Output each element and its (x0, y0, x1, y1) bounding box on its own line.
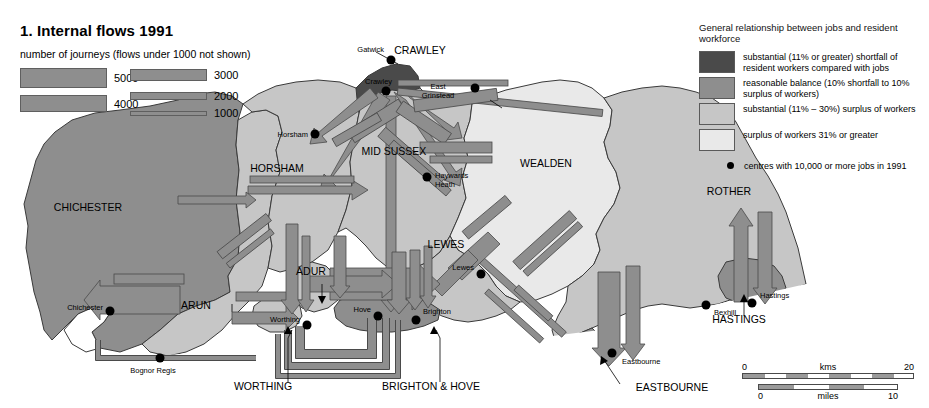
relationship-key-swatch (699, 51, 735, 73)
town-dot (382, 87, 391, 96)
scale-km-labels: 0 kms 20 (742, 362, 914, 373)
journeys-key-item-5000: 5000 (20, 68, 138, 88)
flow-arrow (330, 236, 350, 298)
town-dot (471, 84, 480, 93)
district-label: WEALDEN (520, 157, 572, 169)
flow-arrow (250, 176, 354, 183)
journeys-key-bar (130, 69, 207, 81)
district-label: EASTBOURNE (636, 381, 708, 393)
scale-miles-track (758, 384, 898, 390)
town-label: Heath (435, 180, 455, 189)
relationship-key-text: substantial (11% or greater) shortfall o… (743, 51, 929, 73)
town-dot (156, 354, 165, 363)
scale-km-unit: kms (820, 362, 837, 372)
town-dot (303, 321, 312, 330)
town-label: Hove (353, 305, 371, 314)
scale-miles-min: 0 (758, 391, 763, 401)
relationship-key-text: surplus of workers 31% or greater (743, 129, 878, 141)
journeys-key-bar (20, 95, 107, 112)
town-dot (412, 316, 421, 325)
town-label: Hastings (760, 291, 789, 300)
district-label: MID SUSSEX (362, 145, 427, 157)
town-label: Brighton (423, 307, 451, 316)
relationship-key-row: surplus of workers 31% or greater (699, 129, 929, 151)
relationship-key-row: substantial (11% – 30%) surplus of worke… (699, 103, 929, 125)
town-dot (423, 173, 432, 182)
scale-miles-unit: miles (817, 391, 838, 401)
map-figure: 1. Internal flows 1991 (0, 0, 929, 408)
town-label: East (430, 82, 446, 91)
scale-miles-max: 10 (888, 391, 898, 401)
journeys-key-item-2000: 2000 (130, 90, 238, 102)
town-label: Haywards (435, 171, 469, 180)
journeys-key-heading: number of journeys (flows under 1000 not… (20, 48, 260, 60)
district-label: BRIGHTON & HOVE (382, 380, 480, 392)
relationship-key-swatch (699, 129, 735, 151)
journeys-key-label: 1000 (214, 107, 238, 119)
relationship-key-point-text: centres with 10,000 or more jobs in 1991 (744, 160, 907, 172)
scale-bar: 0 kms 20 0 miles 10 (742, 362, 914, 402)
flow-arrow (420, 142, 492, 153)
town-label: Grinstead (422, 91, 455, 100)
journeys-key: number of journeys (flows under 1000 not… (20, 48, 260, 118)
town-dot (477, 270, 486, 279)
journeys-key-label: 2000 (214, 90, 238, 102)
flow-arrow (430, 156, 492, 163)
town-dot (106, 307, 115, 316)
journeys-key-bar (20, 68, 107, 88)
relationship-key-text: reasonable balance (10% shortfall to 10%… (743, 77, 929, 99)
relationship-key-heading: General relationship between jobs and re… (699, 22, 929, 44)
scale-km-max: 20 (904, 362, 914, 372)
town-dot-icon (727, 162, 734, 169)
district-label: CRAWLEY (394, 44, 446, 56)
journeys-key-item-3000: 3000 (130, 69, 238, 81)
relationship-key-swatch (699, 77, 735, 99)
town-dot (748, 299, 757, 308)
district-label: LEWES (428, 238, 465, 250)
journeys-key-item-4000: 4000 (20, 95, 138, 112)
journeys-key-bar (130, 111, 207, 116)
town-dot (702, 301, 711, 310)
journeys-key-swatches: 5000 4000 3000 2000 1000 (20, 66, 260, 118)
town-label: Worthing (270, 315, 300, 324)
journeys-key-label: 3000 (214, 69, 238, 81)
relationship-key-row: reasonable balance (10% shortfall to 10%… (699, 77, 929, 99)
town-dot (387, 56, 396, 65)
leader-arrowhead (430, 326, 438, 334)
town-label: Horsham (278, 130, 308, 139)
relationship-key-swatch (699, 103, 735, 125)
district-label: CHICHESTER (54, 201, 123, 213)
journeys-key-bar (130, 92, 207, 100)
relationship-key: General relationship between jobs and re… (699, 22, 929, 172)
relationship-key-row: substantial (11% or greater) shortfall o… (699, 51, 929, 73)
district-label: ARUN (181, 299, 211, 311)
town-label: Bognor Regis (130, 366, 176, 375)
town-dot (608, 349, 617, 358)
scale-km-track (742, 373, 914, 379)
relationship-key-point-row: centres with 10,000 or more jobs in 1991 (727, 160, 929, 172)
district-label: ROTHER (707, 185, 752, 197)
town-label: Chichester (67, 303, 103, 312)
town-label: Eastbourne (622, 357, 660, 366)
town-dot (374, 312, 383, 321)
district-label: HORSHAM (250, 162, 304, 174)
flow-arrow (398, 80, 508, 86)
town-label: Gatwick (357, 45, 384, 54)
scale-miles-labels: 0 miles 10 (758, 391, 898, 402)
town-dot (311, 130, 320, 139)
district-label: WORTHING (234, 380, 292, 392)
town-label: Bexhill (714, 308, 736, 317)
flow-arrow (84, 280, 180, 320)
flow-arrow (114, 274, 184, 284)
journeys-key-item-1000: 1000 (130, 107, 238, 119)
town-label: Crawley (365, 77, 392, 86)
town-label: Lewes (452, 263, 474, 272)
district-label: ADUR (296, 265, 326, 277)
relationship-key-text: substantial (11% – 30%) surplus of worke… (743, 103, 915, 115)
scale-km-min: 0 (742, 362, 747, 372)
